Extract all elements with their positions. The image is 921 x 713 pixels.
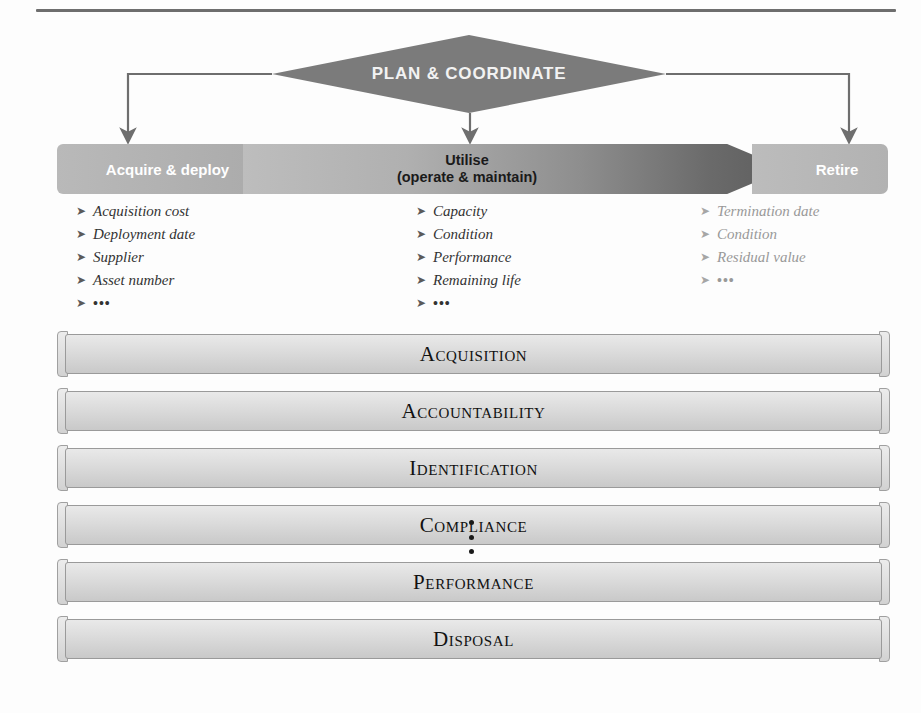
arrow-to-acquire	[128, 74, 272, 136]
arrow-bullet-icon: ➤	[416, 294, 433, 313]
element-bar-label: Performance	[413, 570, 534, 595]
retire-attribute-list: ➤Termination date➤Condition➤Residual val…	[700, 202, 915, 294]
attribute-item: ➤Termination date	[700, 202, 915, 222]
element-bar: Identification	[57, 448, 890, 488]
band-segment-utilise: Utilise (operate & maintain)	[243, 144, 787, 194]
attribute-label: Acquisition cost	[93, 202, 189, 221]
ellipsis-dot	[469, 520, 474, 525]
arrow-bullet-icon: ➤	[76, 248, 93, 267]
arrow-bullet-icon: ➤	[416, 225, 433, 244]
arrow-bullet-icon: ➤	[700, 271, 717, 290]
lifecycle-band: Acquire & deploy Utilise (operate & main…	[57, 144, 888, 194]
element-bar-label: Disposal	[433, 627, 514, 652]
attribute-label: •••	[93, 294, 111, 313]
element-bar: Disposal	[57, 619, 890, 659]
diagram-canvas: PLAN & COORDINATE Acquire & deploy Utili…	[0, 0, 921, 713]
attribute-label: Capacity	[433, 202, 487, 221]
attribute-label: Performance	[433, 248, 511, 267]
arrow-bullet-icon: ➤	[416, 248, 433, 267]
attribute-label: Supplier	[93, 248, 144, 267]
element-bar: Acquisition	[57, 334, 890, 374]
plan-coordinate-diamond: PLAN & COORDINATE	[272, 35, 666, 113]
attribute-label: •••	[433, 294, 451, 313]
attribute-label: Residual value	[717, 248, 806, 267]
bar-body: Performance	[65, 562, 882, 602]
arrow-bullet-icon: ➤	[76, 271, 93, 290]
ellipsis-dot	[469, 549, 474, 554]
attribute-label: Termination date	[717, 202, 819, 221]
attribute-item: ➤•••	[76, 294, 326, 314]
band-segment-acquire-label: Acquire & deploy	[106, 161, 229, 178]
attribute-label: Condition	[433, 225, 493, 244]
attribute-label: Remaining life	[433, 271, 521, 290]
ellipsis-dot	[469, 535, 474, 540]
utilise-attribute-list: ➤Capacity➤Condition➤Performance➤Remainin…	[416, 202, 666, 317]
band-segment-utilise-label: Utilise (operate & maintain)	[397, 152, 537, 185]
attribute-item: ➤•••	[700, 271, 915, 291]
bar-body: Acquisition	[65, 334, 882, 374]
attribute-item: ➤Acquisition cost	[76, 202, 326, 222]
arrow-bullet-icon: ➤	[76, 225, 93, 244]
attribute-item: ➤Condition	[416, 225, 666, 245]
element-bar-label: Accountability	[401, 399, 545, 424]
attribute-label: Condition	[717, 225, 777, 244]
arrow-bullet-icon: ➤	[700, 225, 717, 244]
arrow-bullet-icon: ➤	[700, 248, 717, 267]
bar-body: Identification	[65, 448, 882, 488]
attribute-label: Asset number	[93, 271, 174, 290]
acquire-deploy-attribute-list: ➤Acquisition cost➤Deployment date➤Suppli…	[76, 202, 326, 317]
attribute-label: Deployment date	[93, 225, 195, 244]
diamond-label: PLAN & COORDINATE	[272, 64, 666, 84]
attribute-item: ➤Residual value	[700, 248, 915, 268]
attribute-item: ➤Capacity	[416, 202, 666, 222]
top-divider-rule	[36, 9, 896, 12]
arrow-bullet-icon: ➤	[76, 202, 93, 221]
utilise-label-line1: Utilise	[445, 152, 489, 168]
attribute-item: ➤Performance	[416, 248, 666, 268]
utilise-label-line2: (operate & maintain)	[397, 169, 537, 185]
arrow-to-retire	[666, 74, 849, 136]
attribute-item: ➤Deployment date	[76, 225, 326, 245]
bar-body: Disposal	[65, 619, 882, 659]
attribute-label: •••	[717, 271, 735, 290]
band-segment-retire: Retire	[752, 144, 888, 194]
bar-body: Accountability	[65, 391, 882, 431]
attribute-item: ➤Remaining life	[416, 271, 666, 291]
element-bar: Accountability	[57, 391, 890, 431]
attribute-item: ➤•••	[416, 294, 666, 314]
vertical-ellipsis-marker	[466, 520, 476, 554]
attribute-item: ➤Condition	[700, 225, 915, 245]
attribute-item: ➤Supplier	[76, 248, 326, 268]
arrow-bullet-icon: ➤	[700, 202, 717, 221]
arrow-bullet-icon: ➤	[416, 271, 433, 290]
arrow-bullet-icon: ➤	[76, 294, 93, 313]
element-bar-label: Identification	[409, 456, 538, 481]
element-bar: Performance	[57, 562, 890, 602]
element-bar-label: Acquisition	[420, 342, 528, 367]
arrow-bullet-icon: ➤	[416, 202, 433, 221]
attribute-item: ➤Asset number	[76, 271, 326, 291]
band-segment-retire-label: Retire	[816, 161, 859, 178]
